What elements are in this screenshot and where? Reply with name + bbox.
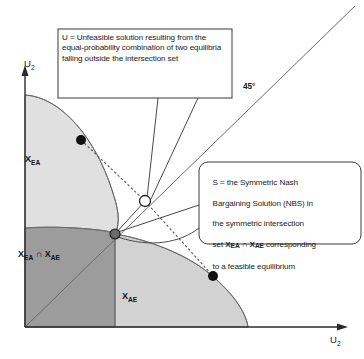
- callout-s-line-4-suffix: corresponding: [264, 240, 316, 249]
- point-u-unfeasible: [140, 196, 151, 207]
- x-axis-label: U2: [330, 334, 341, 347]
- leader-line-s-upper: [118, 205, 199, 232]
- callout-u-text: U = Unfeasible solution resulting from t…: [62, 33, 228, 64]
- callout-s-line-5: to a feasible equilibrium: [213, 262, 296, 271]
- leader-line-u-left: [147, 98, 158, 198]
- diagonal-45-label: 45°: [243, 82, 255, 91]
- region-label-xae: XAE: [122, 291, 137, 303]
- region-label-xea: XEA: [25, 154, 40, 166]
- solid-connector-s-u: [115, 201, 145, 234]
- region-label-intersection-operator: ∩: [36, 249, 43, 259]
- callout-s-text: S = the Symmetric Nash Bargaining Soluti…: [204, 168, 354, 282]
- callout-s-line-4-prefix: set: [213, 240, 226, 249]
- region-label-intersection-sub1: EA: [24, 254, 33, 261]
- x-axis-label-subscript: 2: [337, 340, 341, 347]
- callout-s-line-2: Bargaining Solution (NBS) in: [213, 199, 313, 208]
- y-axis-label-subscript: 2: [31, 64, 35, 71]
- region-label-xae-sub: AE: [128, 296, 137, 303]
- callout-s-line-1: S = the Symmetric Nash: [213, 178, 298, 187]
- region-label-intersection: XEA ∩ XAE: [18, 249, 60, 261]
- y-axis-label-main: U: [24, 58, 31, 69]
- x-axis-label-main: U: [330, 334, 337, 345]
- region-label-intersection-sub2: AE: [51, 254, 60, 261]
- leader-line-s-lower: [118, 228, 199, 243]
- callout-s-intersect-operator: ∩: [240, 240, 250, 249]
- callout-s-line-3: the symmetric intersection: [213, 219, 304, 228]
- point-s-nbs: [110, 229, 120, 239]
- y-axis-label: U2: [24, 58, 35, 71]
- x-axis-arrow-icon: [337, 324, 348, 331]
- point-equilibrium-ea: [76, 135, 86, 145]
- leader-line-u-right: [151, 98, 198, 199]
- nash-bargaining-diagram: U = Unfeasible solution resulting from t…: [0, 0, 364, 359]
- region-label-xea-sub: EA: [31, 159, 40, 166]
- region-intersection-shape: [25, 227, 115, 327]
- callout-s-set-xea-sub: EA: [231, 242, 240, 249]
- callout-s-set-xae-sub: AE: [255, 242, 264, 249]
